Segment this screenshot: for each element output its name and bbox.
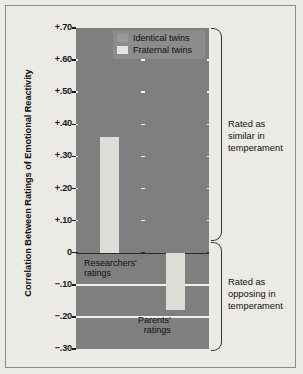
legend-item-fraternal: Fraternal twins [117, 44, 202, 55]
annotation-similar-line1: Rated as [228, 118, 300, 130]
legend-item-identical: Identical twins [117, 33, 202, 44]
figure-container: Correlation Between Ratings of Emotional… [0, 0, 303, 374]
bar-fraternal [100, 137, 119, 253]
y-tick-label: +.50 [40, 86, 72, 96]
bar-identical [145, 28, 208, 253]
annotation-opposing-line1: Rated as [228, 276, 300, 288]
brace-similar [211, 28, 222, 241]
y-tick-label: +.30 [40, 150, 72, 160]
label-parents-ratings-line2: ratings [138, 325, 171, 336]
y-tick-label: 0 [40, 247, 72, 257]
chart-legend: Identical twins Fraternal twins [113, 30, 205, 59]
y-tick-label: +.20 [40, 183, 72, 193]
y-tick-label: +.70 [40, 22, 72, 32]
y-axis-title: Correlation Between Ratings of Emotional… [23, 33, 33, 333]
gridline [76, 284, 209, 286]
bar-fraternal [166, 253, 185, 311]
y-tick-label: +.40 [40, 118, 72, 128]
legend-label-fraternal: Fraternal twins [133, 45, 192, 55]
label-parents-ratings-line1: Parents' [138, 315, 171, 326]
label-researchers-ratings-line2: ratings [84, 268, 137, 279]
label-researchers-ratings: Researchers'ratings [84, 258, 137, 279]
plot-area: Researchers'ratingsParents'ratings [76, 28, 209, 349]
figure-frame: Correlation Between Ratings of Emotional… [5, 5, 296, 368]
y-tick-label: −.10 [40, 279, 72, 289]
label-researchers-ratings-line1: Researchers' [84, 258, 137, 269]
legend-swatch-identical [117, 34, 128, 42]
label-parents-ratings: Parents'ratings [138, 315, 171, 336]
annotation-opposing-line3: temperament [228, 300, 300, 312]
brace-opposing [211, 242, 222, 351]
y-tick-label: −.30 [40, 343, 72, 353]
legend-swatch-fraternal [117, 46, 128, 54]
y-tick-label: −.20 [40, 311, 72, 321]
annotation-similar: Rated as similar in temperament [228, 118, 300, 154]
annotation-opposing-line2: opposing in [228, 288, 300, 300]
annotation-opposing: Rated as opposing in temperament [228, 276, 300, 312]
y-tick-label: +.10 [40, 215, 72, 225]
y-tick-label: +.60 [40, 54, 72, 64]
annotation-similar-line3: temperament [228, 142, 300, 154]
legend-label-identical: Identical twins [133, 33, 190, 43]
annotation-similar-line2: similar in [228, 130, 300, 142]
